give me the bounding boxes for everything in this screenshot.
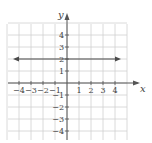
coordinate-plane: −4−3−2−112344321−1−2−3−4 x y <box>0 0 152 143</box>
svg-text:−3: −3 <box>25 86 37 95</box>
svg-text:−3: −3 <box>52 115 64 124</box>
svg-text:2: 2 <box>88 86 93 95</box>
svg-text:4: 4 <box>59 31 64 40</box>
svg-text:1: 1 <box>76 86 81 95</box>
svg-text:3: 3 <box>59 43 64 52</box>
svg-text:1: 1 <box>59 67 64 76</box>
svg-text:−1: −1 <box>52 91 64 100</box>
svg-text:−2: −2 <box>52 103 64 112</box>
y-axis-label: y <box>57 9 64 20</box>
svg-text:−2: −2 <box>37 86 49 95</box>
svg-text:3: 3 <box>100 86 105 95</box>
svg-text:4: 4 <box>112 86 117 95</box>
axes <box>8 13 140 140</box>
svg-text:−4: −4 <box>52 127 64 136</box>
svg-text:−4: −4 <box>13 86 25 95</box>
x-axis-label: x <box>140 83 146 94</box>
